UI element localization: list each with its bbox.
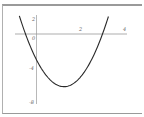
x-tick-4: 4 — [122, 26, 126, 32]
x-tick-2: 2 — [78, 26, 82, 32]
y-tick-2: 2 — [31, 16, 35, 22]
y-tick-0: 0 — [32, 35, 36, 41]
y-tick-neg8: -8 — [29, 99, 34, 105]
y-tick-neg4: -4 — [29, 65, 34, 71]
parabola-chart: 2 0 -4 -8 2 4 — [0, 0, 144, 117]
parabola-curve — [19, 16, 108, 87]
